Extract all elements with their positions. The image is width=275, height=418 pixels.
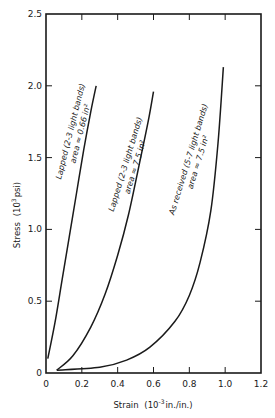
x-tick-label: 0 [43,379,49,389]
annotation-1: Lapped (2-3 light bands)area ≈ 0.66 in² [54,83,96,183]
y-tick-label: 0 [36,368,42,378]
x-tick-label: 1.0 [218,379,233,389]
x-tick-label: 0.4 [111,379,126,389]
y-tick-label: 2.5 [28,9,42,19]
plot-frame [46,14,261,373]
curve-annotations: Lapped (2-3 light bands)area ≈ 0.66 in²L… [54,83,219,220]
x-tick-label: 0.6 [146,379,161,389]
y-tick-label: 1.5 [28,153,42,163]
x-tick-label: 1.2 [254,379,268,389]
y-axis-label: Stress (103psi) [10,182,22,248]
stress-strain-chart: 00.20.40.60.81.01.200.51.01.52.02.5 Lapp… [0,0,275,418]
x-tick-label: 0.2 [75,379,89,389]
plot-border [46,14,261,373]
x-tick-label: 0.8 [182,379,197,389]
y-tick-label: 1.0 [28,224,43,234]
x-axis-label: Strain (10-3in./in.) [113,398,192,410]
y-tick-label: 2.0 [28,81,43,91]
axis-ticks: 00.20.40.60.81.01.200.51.01.52.02.5 [28,9,268,389]
y-tick-label: 0.5 [28,296,42,306]
